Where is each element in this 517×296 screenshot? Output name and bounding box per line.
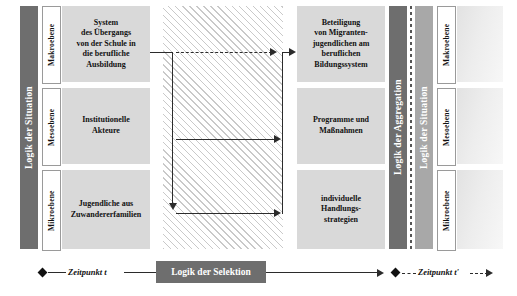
- box-line: Beteiligung: [313, 18, 370, 29]
- box-line: des Übergangs: [76, 28, 135, 39]
- connector-micro-horizontal: [176, 213, 275, 214]
- box-line: Zuwandererfamilien: [71, 210, 142, 221]
- box-programme-massnahmen: Programme und Maßnahmen: [297, 88, 385, 164]
- box-beteiligung-migrantenjugendliche: Beteiligung von Migranten- jugendlichen …: [297, 6, 385, 82]
- box-line: Maßnahmen: [313, 126, 369, 137]
- box-individuelle-handlungsstrategien: individuelle Handlungs- strategien: [297, 170, 385, 249]
- ghost-box-mikro-right: [457, 170, 503, 249]
- connector-meso-horizontal: [176, 139, 275, 140]
- box-line: Bildungssystem: [313, 60, 370, 71]
- ghost-box-meso-right: [457, 88, 503, 164]
- arrowhead-right-meso: [274, 135, 281, 143]
- arrowhead-right-micro: [274, 209, 281, 217]
- box-line: jugendlichen am: [313, 39, 370, 50]
- timeline-seg-mid: [124, 272, 156, 273]
- box-line: von Migranten-: [313, 28, 370, 39]
- timeline-dashed-left: [402, 273, 416, 274]
- logik-der-selektion-bar: Logik der Selektion: [156, 261, 266, 283]
- timeline-end-marker: [391, 268, 401, 278]
- arrowhead-right-aggregation: [289, 48, 296, 56]
- level-label-mesoebene-left: Mesoebene: [42, 88, 61, 166]
- connector-macro-dashed: [176, 52, 272, 53]
- level-label-mesoebene-right: Mesoebene: [437, 88, 456, 166]
- arrowhead-down-to-micro: [169, 203, 177, 210]
- box-line: Handlungs-: [321, 204, 361, 215]
- connector-macro-to-micro-vertical: [172, 52, 173, 207]
- level-label-mikroebene-left: Mikroebene: [42, 170, 61, 251]
- box-line: Ausbildung: [76, 60, 135, 71]
- box-system-uebergang: System des Übergangs von der Schule in d…: [62, 6, 150, 82]
- box-line: beruflichen: [313, 49, 370, 60]
- box-line: System: [76, 18, 135, 29]
- ghost-box-makro-right: [457, 6, 503, 82]
- box-jugendliche-zuwandererfamilien: Jugendliche aus Zuwandererfamilien: [62, 170, 150, 249]
- box-line: Akteure: [82, 126, 130, 137]
- diagram-canvas: Logik der Situation Makroebene Mesoebene…: [0, 0, 517, 296]
- timeline-start-label: Zeitpunkt t: [68, 267, 107, 277]
- box-line: die berufliche: [76, 49, 135, 60]
- phase-separator-dotted: [410, 6, 412, 249]
- box-line: strategien: [321, 215, 361, 226]
- level-label-makroebene-right: Makroebene: [437, 6, 456, 84]
- connector-macro-stub: [150, 52, 173, 53]
- phase-bar-logik-der-aggregation: Logik der Aggregation: [389, 6, 407, 249]
- phase-bar-logik-der-situation-left: Logik der Situation: [20, 6, 38, 249]
- timeline-start-marker: [38, 268, 48, 278]
- box-line: von der Schule in: [76, 39, 135, 50]
- box-line: Programme und: [313, 115, 369, 126]
- timeline-seg-right: [266, 272, 379, 273]
- level-label-makroebene-left: Makroebene: [42, 6, 61, 84]
- arrowhead-right-timeline: [377, 269, 384, 277]
- timeline-seg-left: [48, 272, 66, 273]
- box-institutionelle-akteure: Institutionelle Akteure: [62, 88, 150, 164]
- arrowhead-right-timeline-end: [486, 269, 493, 277]
- timeline-end-label: Zeitpunkt t': [418, 267, 459, 277]
- arrowhead-right-macro-dashed: [270, 48, 277, 56]
- box-line: individuelle: [321, 194, 361, 205]
- box-line: Jugendliche aus: [71, 199, 142, 210]
- connector-aggregation-vertical: [282, 52, 283, 214]
- phase-bar-logik-der-situation-right: Logik der Situation: [415, 6, 433, 249]
- box-line: Institutionelle: [82, 115, 130, 126]
- level-label-mikroebene-right: Mikroebene: [437, 170, 456, 251]
